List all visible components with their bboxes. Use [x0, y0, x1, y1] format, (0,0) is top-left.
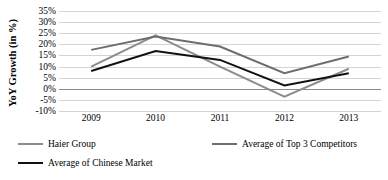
- legend-item-top-3-competitors[interactable]: Average of Top 3 Competitors: [212, 137, 357, 151]
- y-axis-tick: -5%: [22, 95, 56, 105]
- y-axis-title: YoY Growth (in %): [7, 3, 19, 123]
- plot-area: [59, 11, 381, 111]
- y-axis-tick: 30%: [22, 17, 56, 27]
- chart-legend: Haier Group Average of Top 3 Competitors…: [18, 137, 378, 177]
- y-axis-tick: 15%: [22, 50, 56, 60]
- series-line: [91, 37, 349, 74]
- series-line: [91, 51, 349, 85]
- legend-label-top-3-competitors: Average of Top 3 Competitors: [242, 138, 357, 150]
- x-axis-tick-labels: 20092010201120122013: [59, 112, 381, 128]
- y-axis-tick: 10%: [22, 62, 56, 72]
- y-axis-tick: 5%: [22, 73, 56, 83]
- y-axis-tick: 20%: [22, 39, 56, 49]
- y-axis-tick: 25%: [22, 28, 56, 38]
- legend-item-chinese-market[interactable]: Average of Chinese Market: [18, 156, 153, 170]
- legend-label-haier-group: Haier Group: [48, 138, 96, 150]
- legend-swatch-chinese-market: [18, 162, 43, 164]
- x-axis-tick: 2013: [319, 112, 379, 124]
- legend-swatch-haier-group: [18, 143, 43, 145]
- x-axis-tick: 2010: [126, 112, 186, 124]
- line-chart-figure: YoY Growth (in %) 35%30%25%20%15%10%5%0%…: [0, 0, 388, 180]
- legend-swatch-top-3-competitors: [212, 143, 237, 145]
- y-axis-tick: 35%: [22, 6, 56, 16]
- y-axis-tick: -10%: [22, 106, 56, 116]
- series-lines: [59, 11, 381, 111]
- x-axis-tick: 2009: [61, 112, 121, 124]
- x-axis-tick: 2011: [190, 112, 250, 124]
- legend-label-chinese-market: Average of Chinese Market: [48, 157, 153, 169]
- legend-item-haier-group[interactable]: Haier Group: [18, 137, 96, 151]
- y-axis-tick: 0%: [22, 84, 56, 94]
- x-axis-tick: 2012: [254, 112, 314, 124]
